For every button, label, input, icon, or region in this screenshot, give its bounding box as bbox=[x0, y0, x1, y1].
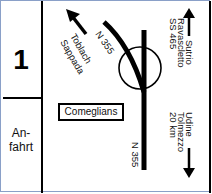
arrow-up-left-icon bbox=[66, 9, 86, 34]
road-label-lower: N 355 bbox=[130, 142, 141, 167]
route-map: Toblach Sappada N 355 Sutrio Ravascletto… bbox=[0, 0, 212, 194]
arrow-down-icon bbox=[183, 148, 195, 178]
town-label: Comeglians bbox=[58, 103, 124, 121]
dest-lower-right-line3: 20 km bbox=[168, 112, 179, 138]
dest-upper-right-line3: SS 465 bbox=[168, 18, 179, 49]
